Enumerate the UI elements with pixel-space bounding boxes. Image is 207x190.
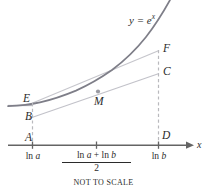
exponential-curve-figure: y = ex A B E M C F D x ln a ln a + ln b … <box>0 0 207 190</box>
point-marker-m <box>96 89 100 93</box>
point-label-c: C <box>163 66 171 78</box>
point-label-b: B <box>25 111 32 123</box>
curve-equation-label: y = ex <box>129 15 155 26</box>
tick-label-ln-b-variable: b <box>162 151 167 161</box>
tick-label-ln-b: ln b <box>145 152 173 162</box>
point-label-e: E <box>23 93 30 105</box>
curve-equation-prefix: y = e <box>129 14 152 26</box>
tick-label-midpoint-denominator: 2 <box>62 163 131 174</box>
x-axis-arrowhead <box>186 142 194 149</box>
curve-equation-exponent: x <box>152 12 155 21</box>
midpoint-num-pre: ln <box>77 150 87 160</box>
x-axis-label: x <box>197 140 201 150</box>
tick-label-ln-b-prefix: ln <box>152 151 162 161</box>
midpoint-num-b: b <box>111 150 116 160</box>
tick-label-midpoint-numerator: ln a + ln b <box>62 151 131 163</box>
point-label-d: D <box>162 130 170 142</box>
point-label-m: M <box>94 96 104 108</box>
tick-label-midpoint: ln a + ln b 2 <box>62 151 131 174</box>
tick-label-ln-a: ln a <box>19 152 47 162</box>
tick-label-ln-a-variable: a <box>36 151 41 161</box>
tick-label-ln-a-prefix: ln <box>26 151 36 161</box>
midpoint-num-mid: + ln <box>91 150 111 160</box>
figure-caption: NOT TO SCALE <box>0 178 207 187</box>
point-label-f: F <box>163 43 170 55</box>
point-label-a: A <box>25 132 32 144</box>
